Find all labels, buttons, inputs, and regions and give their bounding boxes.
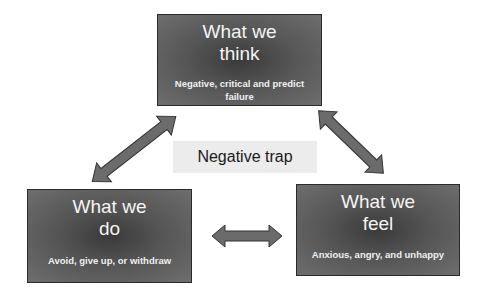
center-label: Negative trap xyxy=(173,141,317,173)
node-title-line2: feel xyxy=(341,213,415,235)
double-arrow-think-feel xyxy=(310,102,391,182)
node-title-line2: do xyxy=(73,218,147,240)
node-description: Avoid, give up, or withdraw xyxy=(42,254,177,267)
double-arrow-do-feel xyxy=(212,225,282,247)
node-title: What we do xyxy=(73,196,147,240)
node-title: What we feel xyxy=(341,191,415,235)
node-description: Anxious, angry, and unhappy xyxy=(306,248,450,261)
node-what-we-think: What we think Negative, critical and pre… xyxy=(157,14,322,106)
node-description: Negative, critical and predict failure xyxy=(158,77,321,103)
node-title: What we think xyxy=(203,21,277,65)
node-title-line1: What we xyxy=(341,191,415,213)
node-title-line1: What we xyxy=(73,196,147,218)
node-what-we-do: What we do Avoid, give up, or withdraw xyxy=(27,189,192,283)
node-title-line1: What we xyxy=(203,21,277,43)
double-arrow-think-do xyxy=(85,107,183,191)
node-title-line2: think xyxy=(203,43,277,65)
node-what-we-feel: What we feel Anxious, angry, and unhappy xyxy=(296,184,460,276)
